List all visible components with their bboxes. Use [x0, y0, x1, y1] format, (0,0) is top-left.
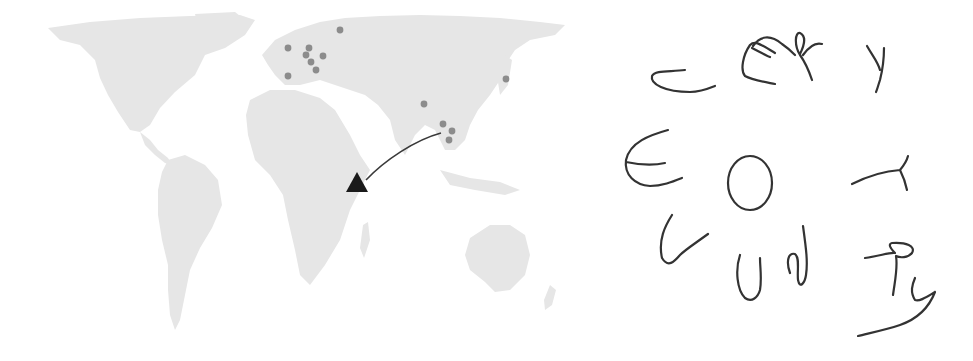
location-dot-asia	[440, 121, 447, 128]
location-dot-asia	[446, 137, 453, 144]
glyph-u-bottom-2	[737, 255, 761, 300]
location-dot-europe	[303, 52, 310, 59]
location-dot-europe	[285, 45, 292, 52]
glyph-y-top	[867, 46, 884, 92]
glyph-u-bottom-1	[661, 215, 708, 263]
indonesia	[440, 170, 520, 195]
land-masses	[48, 12, 565, 330]
location-dot-asia	[503, 76, 510, 83]
south-america	[158, 155, 222, 330]
location-dot-europe	[337, 27, 344, 34]
location-dot-europe	[285, 73, 292, 80]
glyph-y-bottom	[858, 278, 935, 336]
world-map	[0, 0, 590, 361]
new-zealand	[544, 285, 556, 310]
location-dot-europe	[320, 53, 327, 60]
glyph-e-top	[743, 43, 775, 84]
madagascar	[360, 222, 370, 258]
location-dot-europe	[308, 59, 315, 66]
glyph-o-mid	[728, 156, 772, 210]
glyph-r-bottom	[865, 243, 913, 295]
handwritten-glyphs	[590, 0, 973, 361]
glyph-r-top	[753, 33, 822, 80]
australia	[465, 225, 530, 292]
location-dot-asia	[449, 128, 456, 135]
location-dot-europe	[306, 45, 313, 52]
handwriting-panel	[590, 0, 973, 361]
glyph-c-top	[652, 70, 715, 92]
location-dot-europe	[313, 67, 320, 74]
glyph-n-bottom	[788, 226, 807, 285]
glyph-t-mid	[852, 156, 908, 190]
central-america	[140, 132, 172, 165]
world-map-panel	[0, 0, 590, 361]
glyph-e-mid	[626, 130, 682, 186]
location-dot-asia	[421, 101, 428, 108]
